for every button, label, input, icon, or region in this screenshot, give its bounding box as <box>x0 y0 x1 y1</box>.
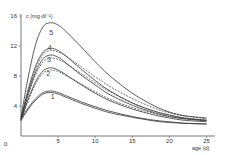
y-tick-label: 8 <box>14 73 18 79</box>
series-3-dashed <box>21 58 207 120</box>
curve-labels: 12345 <box>46 29 54 101</box>
x-ticks: 510152025 <box>56 136 210 144</box>
curve-label-2: 2 <box>46 70 50 77</box>
y-axis-title: c (mg·dl⁻¹) <box>26 13 53 19</box>
x-tick-label: 25 <box>203 138 210 144</box>
x-tick-label: 20 <box>166 138 173 144</box>
x-tick-label: 5 <box>56 138 60 144</box>
curve-label-5: 5 <box>49 29 53 36</box>
y-tick-label: 4 <box>14 103 18 109</box>
curve-label-4: 4 <box>48 44 52 51</box>
x-axis-title: age (d) <box>192 145 210 151</box>
y-tick-label: 12 <box>10 43 17 49</box>
x-tick-label: 15 <box>129 138 136 144</box>
y-tick-label: 16 <box>10 13 17 19</box>
curve-label-1: 1 <box>51 93 55 100</box>
y-ticks: 0481216 <box>4 13 21 147</box>
line-chart: 12345 0481216 510152025 c (mg·dl⁻¹) age … <box>0 0 230 155</box>
y-tick-label: 0 <box>4 141 8 147</box>
x-tick-label: 10 <box>92 138 99 144</box>
series-1 <box>21 91 207 124</box>
series-3 <box>21 55 207 121</box>
curve-label-3: 3 <box>47 56 51 63</box>
